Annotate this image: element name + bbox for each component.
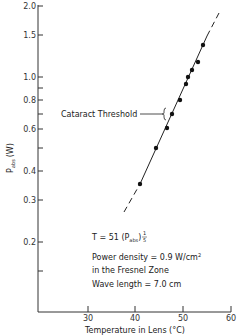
svg-text:60: 60 <box>226 314 236 323</box>
data-point <box>178 98 182 102</box>
svg-text:0.4: 0.4 <box>23 167 36 176</box>
power-density-text: Power density = 0.9 W/cm2 <box>92 252 201 262</box>
data-point <box>138 182 142 186</box>
x-axis-label: Temperature in Lens (°C) <box>84 326 185 335</box>
svg-text:1.5: 1.5 <box>23 31 36 40</box>
svg-text:5: 5 <box>143 237 146 243</box>
data-point <box>184 82 188 86</box>
data-point <box>186 75 190 79</box>
fit-line-solid <box>140 36 207 184</box>
data-point <box>165 126 169 130</box>
wavelength-text: Wave length = 7.0 cm <box>92 280 181 289</box>
svg-text:T = 51 (Pabs): T = 51 (Pabs) <box>91 233 141 243</box>
formula: T = 51 (Pabs) 1 5 <box>91 230 147 243</box>
fit-line-dashed-lower <box>124 184 140 212</box>
y-ticks <box>38 6 43 271</box>
svg-text:1.0: 1.0 <box>23 73 36 82</box>
svg-text:0.8: 0.8 <box>23 96 36 105</box>
cataract-threshold-label: Cataract Threshold <box>61 110 137 119</box>
fresnel-zone-text: in the Fresnel Zone <box>92 266 169 275</box>
data-point <box>201 43 205 47</box>
svg-text:40: 40 <box>130 314 140 323</box>
svg-text:1: 1 <box>143 230 146 236</box>
data-points <box>138 43 205 186</box>
fit-line-dashed-upper <box>207 13 219 36</box>
svg-text:0.6: 0.6 <box>23 125 36 134</box>
chart: 2.0 1.5 1.0 0.8 0.6 0.4 0.3 0.2 Pabs(W) … <box>0 0 240 336</box>
svg-text:0.3: 0.3 <box>23 196 36 205</box>
svg-text:30: 30 <box>83 314 93 323</box>
svg-text:50: 50 <box>178 314 188 323</box>
svg-text:0.2: 0.2 <box>23 238 36 247</box>
data-point <box>170 112 174 116</box>
data-point <box>196 60 200 64</box>
data-point <box>154 146 158 150</box>
y-axis-label: Pabs(W) <box>6 143 16 173</box>
svg-text:Pabs(W): Pabs(W) <box>6 143 16 173</box>
y-tick-labels: 2.0 1.5 1.0 0.8 0.6 0.4 0.3 0.2 <box>23 2 36 247</box>
svg-text:2.0: 2.0 <box>23 2 36 11</box>
x-ticks <box>88 306 231 312</box>
data-point <box>190 68 194 72</box>
brace-icon <box>162 108 166 120</box>
x-tick-labels: 30 40 50 60 <box>83 314 236 323</box>
